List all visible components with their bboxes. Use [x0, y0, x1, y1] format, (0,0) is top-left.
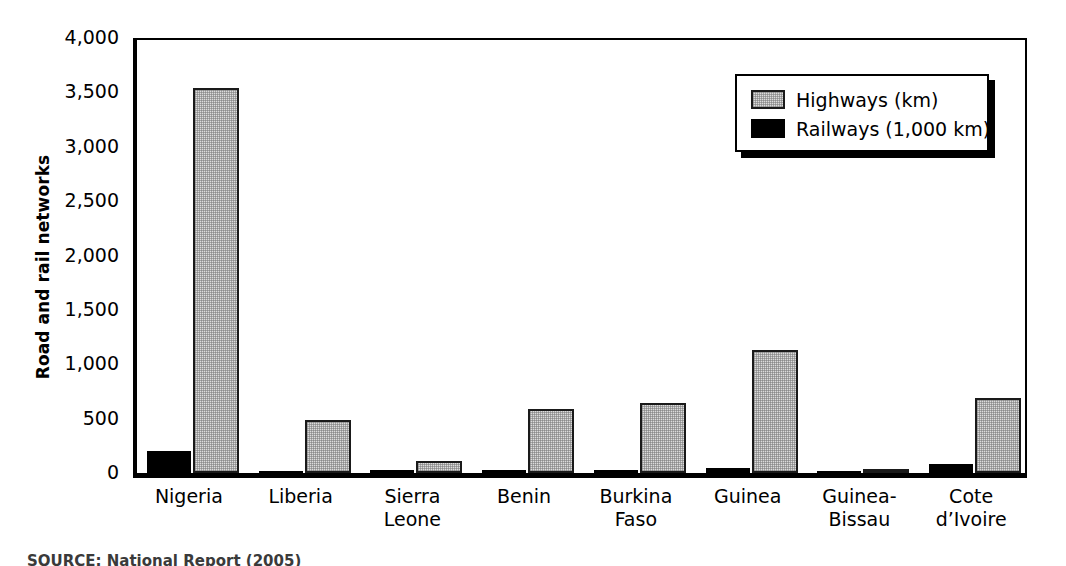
chart-legend: Highways (km) Railways (1,000 km): [735, 74, 989, 152]
y-axis-tick-label: 1,000: [29, 354, 119, 373]
y-axis-tick-label: 4,000: [29, 28, 119, 47]
legend-label-railways: Railways (1,000 km): [796, 118, 990, 140]
y-axis-tick-label: 2,000: [29, 246, 119, 265]
bar-railways: [594, 470, 638, 473]
bar-highways: [193, 88, 239, 473]
legend-item-highways: Highways (km): [751, 85, 987, 114]
bar-railways: [370, 470, 414, 473]
legend-label-highways: Highways (km): [796, 89, 938, 111]
bar-highways: [528, 409, 574, 473]
legend-swatch-highways: [751, 90, 785, 109]
bar-highways: [752, 350, 798, 473]
bar-highways: [416, 461, 462, 473]
bar-highways: [863, 469, 909, 473]
bar-railways: [817, 471, 861, 473]
bar-railways: [259, 471, 303, 473]
bar-highways: [305, 420, 351, 473]
legend-item-railways: Railways (1,000 km): [751, 114, 987, 143]
bar-railways: [706, 468, 750, 473]
bar-railways: [482, 470, 526, 473]
legend-swatch-railways: [751, 119, 785, 138]
bar-railways: [929, 464, 973, 473]
y-axis-tick-label: 2,500: [29, 191, 119, 210]
y-axis-tick-label: 3,500: [29, 82, 119, 101]
bar-railways: [147, 451, 191, 473]
y-axis-tick-label: 1,500: [29, 300, 119, 319]
chart-figure: Road and rail networks 05001,0001,5002,0…: [0, 0, 1066, 566]
x-axis-tick-label: Cote d’Ivoire: [905, 485, 1037, 531]
y-axis-tick-label: 500: [29, 409, 119, 428]
bar-highways: [975, 398, 1021, 473]
bar-highways: [640, 403, 686, 473]
y-axis-tick-label: 0: [29, 463, 119, 482]
source-note: SOURCE: National Report (2005): [27, 552, 301, 566]
y-axis-tick-label: 3,000: [29, 137, 119, 156]
